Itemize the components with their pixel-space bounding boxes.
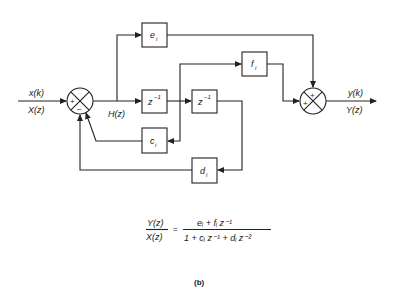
delay2-to-d-line (217, 101, 242, 170)
transfer-function: Y(z) X(z) = eᵢ + fᵢ z⁻¹ 1 + cᵢ z⁻¹ + dᵢ … (145, 218, 271, 243)
output-time-label: y(k) (347, 88, 363, 98)
tf-lhs-numerator: Y(z) (147, 218, 164, 228)
svg-text:e: e (150, 30, 155, 40)
svg-text:−1: −1 (204, 94, 211, 100)
svg-text:z: z (147, 97, 153, 107)
f-to-summer-line (267, 64, 299, 101)
left-summing-junction: + − (67, 88, 93, 114)
output-z-label: Y(z) (346, 105, 363, 115)
tf-rhs-denominator: 1 + cᵢ z⁻¹ + dᵢ z⁻² (184, 233, 252, 243)
delay-block-2: z −1 (192, 90, 217, 113)
d-feedback-line (80, 115, 192, 170)
tf-rhs-numerator: eᵢ + fᵢ z⁻¹ (197, 218, 232, 228)
left-summer-minus-sign: − (77, 105, 82, 114)
figure-caption: (b) (194, 278, 205, 287)
e-coefficient-block: e i (142, 23, 167, 47)
svg-text:z: z (197, 97, 203, 107)
h-label: H(z) (108, 109, 125, 119)
branch-to-e-line (117, 35, 141, 101)
c-coefficient-block: c i (142, 128, 167, 153)
input-z-label: X(z) (27, 105, 45, 115)
left-summer-plus-sign: + (70, 97, 75, 106)
right-summing-junction: + + (300, 88, 326, 114)
f-coefficient-block: f i (242, 52, 267, 76)
tf-equals: = (173, 225, 178, 234)
right-summer-left-plus: + (303, 99, 308, 108)
block-diagram: x(k) X(z) + − H(z) e i z −1 z −1 f (0, 0, 394, 293)
tf-lhs-denominator: X(z) (145, 232, 163, 242)
delay-block-1: z −1 (142, 90, 167, 113)
input-time-label: x(k) (28, 88, 44, 98)
e-to-summer-line (167, 35, 313, 87)
svg-text:−1: −1 (154, 94, 161, 100)
branch-to-c-line (168, 101, 180, 141)
right-summer-top-plus: + (310, 91, 315, 100)
d-coefficient-block: d i (192, 158, 217, 183)
